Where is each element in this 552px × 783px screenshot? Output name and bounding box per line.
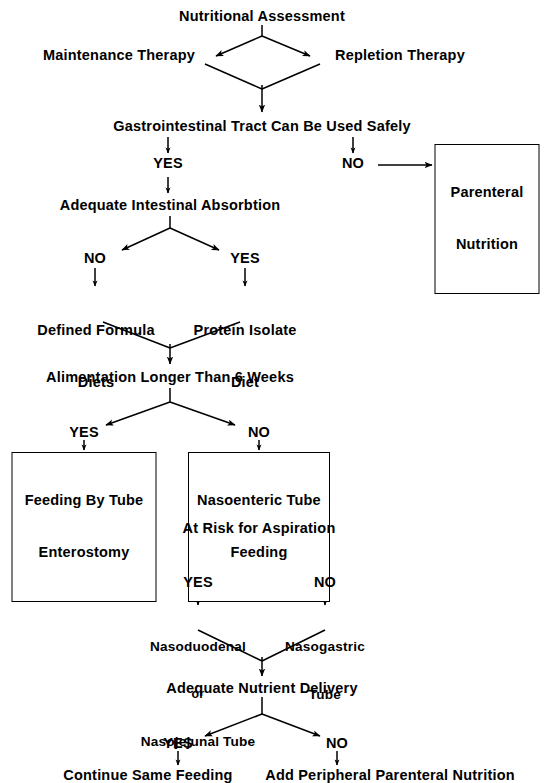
- feeding-tube-line2: Enterostomy: [21, 544, 148, 561]
- edge-label-delivery-no: NO: [326, 735, 348, 752]
- node-alimentation-longer-than-6-weeks: Alimentation Longer Than 6 Weeks: [46, 369, 294, 386]
- edge-label-gi-no: NO: [342, 155, 364, 172]
- node-parenteral-nutrition: Parenteral Nutrition: [435, 144, 540, 294]
- edge-label-absorb-no: NO: [84, 250, 106, 267]
- edge-label-alimentation-yes: YES: [69, 424, 99, 441]
- feeding-tube-line1: Feeding By Tube: [21, 492, 148, 509]
- protein-isolate-line1: Protein Isolate: [194, 322, 297, 339]
- edge-label-gi-yes: YES: [153, 155, 183, 172]
- nasoenteric-line2: Feeding: [197, 544, 321, 561]
- defined-formula-line1: Defined Formula: [37, 322, 154, 339]
- nasoduodenal-line1: Nasoduodenal: [141, 639, 256, 655]
- node-nasogastric-tube: Nasogastric Tube: [285, 607, 365, 735]
- edge-label-absorb-yes: YES: [230, 250, 260, 267]
- node-at-risk-for-aspiration: At Risk for Aspiration: [183, 520, 336, 537]
- node-adequate-intestinal-absorbtion: Adequate Intestinal Absorbtion: [60, 197, 281, 214]
- nasoenteric-line1: Nasoenteric Tube: [197, 492, 321, 509]
- node-adequate-nutrient-delivery: Adequate Nutrient Delivery: [166, 680, 357, 697]
- node-maintenance-therapy: Maintenance Therapy: [43, 47, 195, 64]
- edge-label-alimentation-no: NO: [248, 424, 270, 441]
- edge-label-delivery-yes: YES: [163, 735, 193, 752]
- flowchart-canvas: Nutritional Assessment Maintenance Thera…: [0, 0, 552, 783]
- edge-label-aspiration-no: NO: [314, 574, 336, 591]
- nasogastric-line1: Nasogastric: [285, 639, 365, 655]
- nasoduodenal-line3: Nasojejunal Tube: [141, 734, 256, 750]
- edge-label-aspiration-yes: YES: [183, 574, 213, 591]
- node-defined-formula-diets: Defined Formula Diets: [37, 288, 154, 425]
- node-protein-isolate-diet: Protein Isolate Diet: [194, 288, 297, 425]
- node-add-peripheral-parenteral-nutrition: Add Peripheral Parenteral Nutrition: [265, 767, 515, 783]
- node-continue-same-feeding: Continue Same Feeding: [63, 767, 232, 783]
- parenteral-nutrition-line2: Nutrition: [444, 236, 531, 253]
- node-repletion-therapy: Repletion Therapy: [335, 47, 465, 64]
- node-gastrointestinal-tract: Gastrointestinal Tract Can Be Used Safel…: [113, 118, 411, 135]
- node-nutritional-assessment: Nutritional Assessment: [179, 8, 345, 25]
- node-feeding-by-tube-enterostomy: Feeding By Tube Enterostomy: [12, 452, 157, 602]
- parenteral-nutrition-line1: Parenteral: [444, 184, 531, 201]
